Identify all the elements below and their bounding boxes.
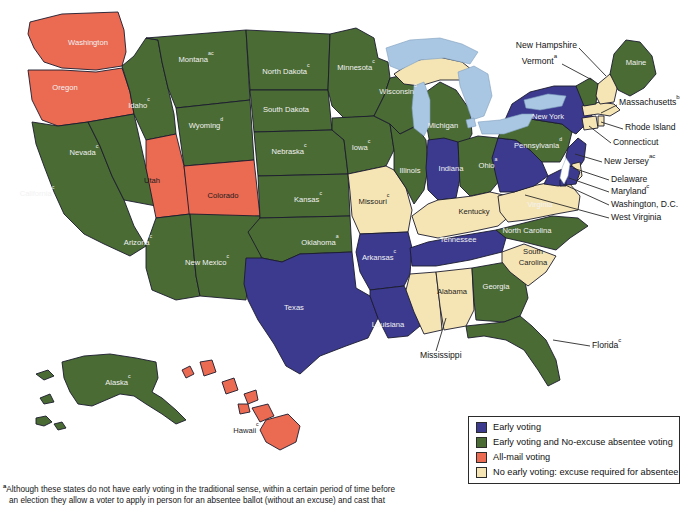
us-voting-map-figure: WashingtonOregonIdahocMontanaacWyomingdN…	[0, 0, 684, 510]
state-colorado[interactable]	[184, 160, 260, 222]
state-label-california: Californiac	[20, 185, 55, 198]
footnote-block: aAlthough these states do not have early…	[3, 483, 455, 506]
callout-label-florida: Floridac	[592, 337, 621, 351]
callout-label-mississippi: Mississippi	[420, 350, 462, 360]
callout-label-new-hampshire: New Hampshire	[516, 40, 577, 50]
state-alaska-isl2[interactable]	[36, 370, 54, 404]
state-north-dakota[interactable]	[246, 30, 330, 90]
callout-label-new-jersey: New Jerseyac	[604, 153, 655, 167]
callout-label-connecticut: Connecticut	[613, 137, 659, 147]
legend-swatch-early-and-absentee	[476, 437, 487, 448]
leader-line-connecticut	[589, 126, 611, 143]
legend-label: No early voting: excuse required for abs…	[493, 467, 678, 477]
callout-label-washington-dc: Washington, D.C.	[611, 199, 678, 209]
legend-item[interactable]: No early voting: excuse required for abs…	[476, 467, 673, 478]
callout-label-maryland: Marylandc	[611, 183, 649, 197]
legend-label: Early voting and No-excuse absentee voti…	[493, 437, 673, 447]
footnote-line-1: Although these states do not have early …	[6, 485, 395, 494]
legend-item[interactable]: All-mail voting	[476, 452, 673, 463]
state-washington[interactable]	[28, 12, 126, 70]
state-label-hawaii: Hawaiic	[233, 422, 259, 435]
state-south-dakota[interactable]	[250, 90, 332, 132]
legend-item[interactable]: Early voting	[476, 422, 673, 433]
state-alaska-aleutians[interactable]	[36, 416, 66, 430]
states-layer	[28, 12, 656, 450]
map-legend: Early voting Early voting and No-excuse …	[468, 416, 680, 484]
legend-label: All-mail voting	[493, 452, 550, 462]
state-alaska[interactable]	[62, 354, 186, 424]
legend-swatch-early-voting	[476, 422, 487, 433]
legend-label: Early voting	[493, 422, 541, 432]
lake-michigan	[412, 82, 430, 136]
leader-line-new-hampshire	[579, 48, 606, 76]
state-rhode-island[interactable]	[598, 116, 604, 126]
callout-label-massachusetts: Massachusettsb	[619, 94, 680, 108]
state-maine[interactable]	[610, 40, 656, 96]
state-alabama[interactable]	[436, 268, 474, 330]
callout-label-delaware: Delaware	[611, 174, 648, 184]
legend-item[interactable]: Early voting and No-excuse absentee voti…	[476, 437, 673, 448]
callout-label-vermont: Vermonta	[522, 53, 558, 67]
state-indiana[interactable]	[426, 138, 460, 200]
lake-st-clair	[466, 118, 476, 128]
footnote-line-2: an election they allow a voter to apply …	[3, 496, 455, 507]
state-texas[interactable]	[244, 252, 378, 374]
leader-line-florida	[553, 340, 590, 346]
legend-swatch-no-early-voting	[476, 467, 487, 478]
state-nebraska[interactable]	[254, 130, 348, 176]
state-hawaii[interactable]	[182, 360, 300, 450]
state-wyoming[interactable]	[176, 100, 254, 166]
callout-label-rhode-island: Rhode Island	[625, 122, 676, 132]
leader-line-vermont	[562, 64, 592, 80]
callout-label-west-virginia: West Virginia	[611, 212, 662, 222]
state-connecticut[interactable]	[582, 116, 598, 130]
state-arkansas[interactable]	[356, 232, 412, 290]
legend-swatch-all-mail	[476, 452, 487, 463]
state-florida[interactable]	[466, 316, 560, 386]
state-kansas[interactable]	[258, 174, 350, 218]
